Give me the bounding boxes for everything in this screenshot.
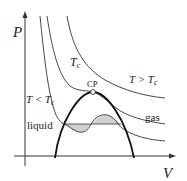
- label-tc: Tc: [70, 55, 81, 70]
- label-t-above-tc: T > Tc: [129, 73, 158, 87]
- label-liquid: liquid: [27, 119, 53, 131]
- x-axis-arrow-icon: [169, 154, 176, 159]
- label-gas: gas: [145, 111, 160, 123]
- isotherm-above-critical: [67, 16, 165, 98]
- x-axis-label: V: [163, 165, 174, 181]
- maxwell-area-upper: [92, 115, 121, 124]
- label-t-below-tc: T < Tc: [26, 93, 55, 107]
- isotherm-critical: [47, 16, 165, 124]
- y-axis-label: P: [12, 24, 22, 40]
- label-critical-point: CP: [87, 79, 98, 89]
- pv-diagram: P V Tc CP T > Tc T < Tc gas liquid: [0, 0, 187, 181]
- critical-point-marker: [91, 90, 96, 95]
- y-axis-arrow-icon: [23, 11, 28, 18]
